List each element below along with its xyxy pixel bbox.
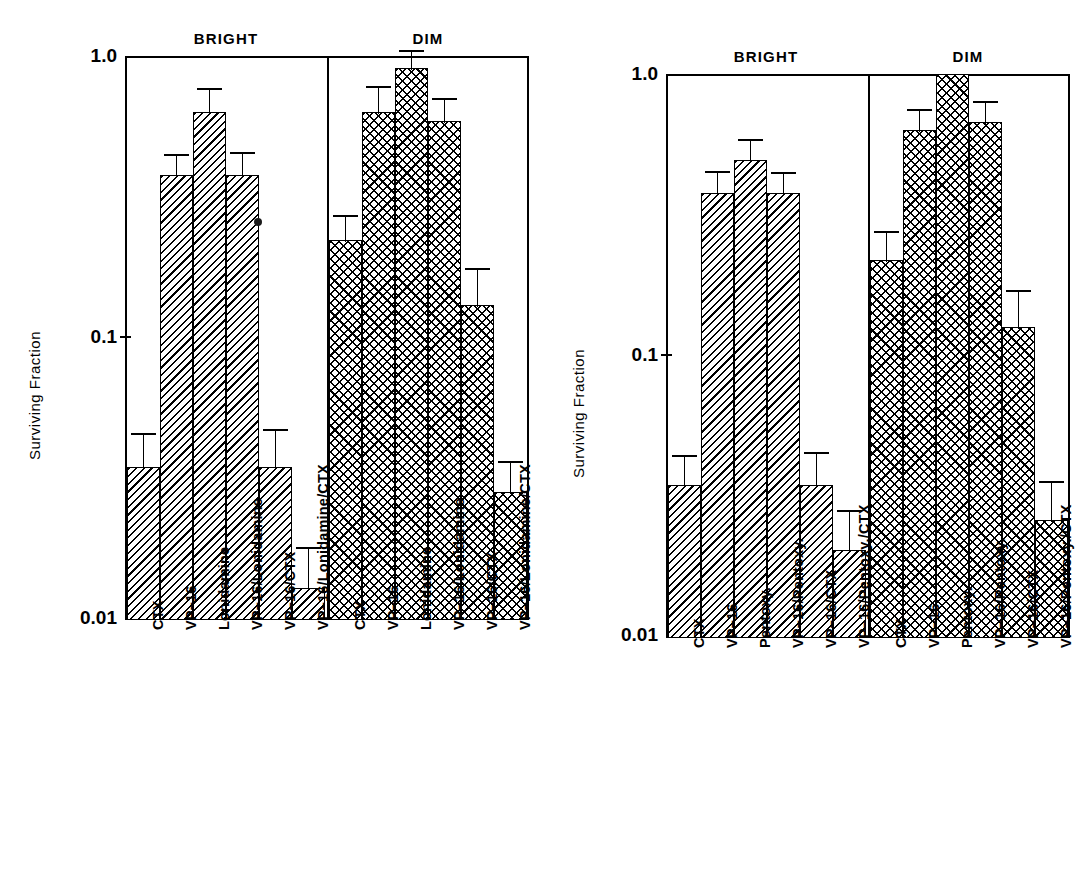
bar-bright-vp16-right (701, 193, 734, 638)
x-label-dim-vp16-left: VP–16 (385, 585, 401, 630)
bar-bright-lonidamine-left (193, 112, 226, 620)
x-label-dim-vp16-right: VP–16 (926, 603, 942, 648)
chart-panel-lonidamine: Surviving Fraction 1.0 0.1 0.01 BRIGHT D… (0, 0, 537, 893)
bar-dim-lonidamine-left (395, 68, 428, 620)
bar-bright-ctx-left (127, 467, 160, 620)
chart-panel-pentoxifylline: Surviving Fraction 1.0 0.1 0.01 BRIGHT D… (538, 0, 1075, 893)
errorbar-bright-vp16-ctx-right (804, 452, 829, 487)
errorbar-bright-vp16-right (705, 171, 730, 195)
y-tick-label-0.01-left: 0.01 (43, 607, 117, 629)
bar-bright-ctx-right (668, 485, 701, 638)
errorbar-dim-vp16-lonidamine-left (432, 98, 457, 123)
x-label-bright-vp16-ctx-left: VP–16/CTX (282, 552, 298, 630)
x-label-bright-vp16-pentoxy-right: VP–16/Pentoxy. (790, 538, 806, 648)
errorbar-bright-pentoxy-right (738, 139, 763, 162)
bar-dim-pentoxy-right (936, 74, 969, 638)
x-label-bright-ctx-left: CTX (150, 600, 166, 630)
errorbar-bright-vp16-left (164, 154, 189, 177)
x-label-dim-vp16-pentoxy-ctx-right: VP–16/Pentoxy./CTX (1058, 504, 1074, 648)
x-label-bright-vp16-right: VP–16 (724, 603, 740, 648)
x-label-dim-ctx-right: CTX (893, 618, 909, 648)
y-tick-mark-0.1-right (661, 354, 672, 356)
x-label-dim-vp16-ctx-right: VP–16/CTX (1025, 570, 1041, 648)
errorbar-dim-lonidamine-left (399, 50, 424, 70)
bar-dim-ctx-right (870, 260, 903, 638)
group-label-bright-right: BRIGHT (666, 48, 866, 65)
bar-dim-vp16-left (362, 112, 395, 620)
x-label-bright-pentoxy-right: Pentoxy. (757, 587, 773, 648)
x-label-bright-vp16-left: VP–16 (183, 585, 199, 630)
x-label-dim-vp16-lonidamine-ctx-left: VP–16/Lonidamine/CTX (517, 464, 533, 630)
bar-dim-ctx-left (329, 240, 362, 620)
group-label-bright-left: BRIGHT (126, 30, 326, 47)
bar-bright-pentoxy-right (734, 160, 767, 638)
errorbar-bright-ctx-left (131, 433, 156, 469)
errorbar-dim-vp16-left (366, 86, 391, 114)
errorbar-dim-ctx-left (333, 215, 358, 242)
errorbar-bright-vp16-pentoxy-right (771, 172, 796, 195)
y-tick-label-1.0-left: 1.0 (55, 45, 117, 67)
errorbar-bright-lonidamine-left (197, 88, 222, 114)
group-label-dim-left: DIM (328, 30, 528, 47)
bar-dim-vp16-right (903, 130, 936, 638)
x-label-dim-vp16-lonidamine-left: VP–16/Lonidamine (451, 498, 467, 630)
errorbar-bright-ctx-right (672, 455, 697, 487)
errorbar-dim-vp16-ctx-right (1006, 290, 1031, 329)
x-label-dim-vp16-pentoxy-right: VP–16/Pentoxy. (992, 538, 1008, 648)
x-label-dim-lonidamine-left: Lonidamine (418, 547, 434, 630)
x-label-bright-ctx-right: CTX (691, 618, 707, 648)
errorbar-dim-vp16-pentoxy-right (973, 101, 998, 124)
x-label-bright-vp16-pentoxy-ctx-right: VP–16/Pentoxy./CTX (856, 504, 872, 648)
y-tick-label-0.1-right: 0.1 (596, 344, 658, 366)
y-axis-title-left: Surviving Fraction (26, 331, 43, 460)
y-tick-label-0.01-right: 0.01 (584, 624, 658, 646)
x-label-bright-vp16-lonidamine-ctx-left: VP–16/Lonidamine/CTX (315, 464, 331, 630)
x-label-dim-pentoxy-right: Pentoxy. (959, 587, 975, 648)
errorbar-bright-vp16-lonidamine-left (230, 152, 255, 177)
errorbar-dim-vp16-ctx-left (465, 268, 490, 307)
errorbar-dim-vp16-right (907, 109, 932, 132)
bar-bright-vp16-left (160, 175, 193, 620)
x-label-bright-vp16-lonidamine-left: VP–16/Lonidamine (249, 498, 265, 630)
x-label-bright-vp16-ctx-right: VP–16/CTX (823, 570, 839, 648)
x-label-dim-ctx-left: CTX (352, 600, 368, 630)
group-label-dim-right: DIM (868, 48, 1068, 65)
errorbar-bright-vp16-ctx-left (263, 429, 288, 469)
y-axis-title-right: Surviving Fraction (570, 349, 587, 478)
errorbar-dim-ctx-right (874, 231, 899, 262)
y-tick-label-1.0-right: 1.0 (596, 63, 658, 85)
x-label-bright-lonidamine-left: Lonidamine (216, 547, 232, 630)
y-tick-label-0.1-left: 0.1 (55, 326, 117, 348)
data-point-marker-left (254, 218, 262, 226)
x-label-dim-vp16-ctx-left: VP–16/CTX (484, 552, 500, 630)
y-tick-mark-0.1-left (120, 336, 131, 338)
